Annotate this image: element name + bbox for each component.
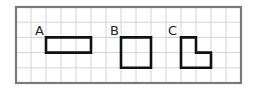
grid-border — [16, 7, 241, 83]
shape-b: B — [110, 23, 151, 68]
shape-c-label: C — [168, 23, 177, 38]
grid-diagram: ABC — [0, 0, 262, 92]
shape-a-outline — [46, 37, 91, 52]
grid-lines — [16, 7, 241, 83]
shape-b-label: B — [110, 23, 119, 38]
shape-c: C — [168, 23, 211, 68]
shape-a-label: A — [35, 23, 44, 38]
shape-a: A — [35, 23, 91, 53]
